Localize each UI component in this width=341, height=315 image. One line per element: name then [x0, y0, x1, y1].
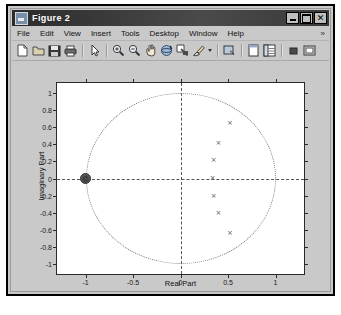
y-tick	[53, 93, 57, 94]
x-tick-top	[181, 79, 182, 83]
y-tick-right	[304, 264, 308, 265]
zero-marker: ×	[226, 120, 233, 127]
y-tick	[53, 179, 57, 180]
edit-plot-arrow-icon[interactable]	[87, 43, 102, 58]
y-tick-right	[304, 196, 308, 197]
y-tick-right	[304, 93, 308, 94]
y-tick-right	[304, 247, 308, 248]
x-tick-label: -1	[73, 279, 99, 286]
window-title: Figure 2	[32, 13, 70, 23]
menu-overflow-chevron[interactable]: »	[321, 29, 325, 38]
figure-window-inner: Figure 2 ✕ File Edit View Insert Tools D…	[10, 8, 331, 292]
y-tick	[53, 110, 57, 111]
y-tick-right	[304, 144, 308, 145]
y-tick-right	[304, 213, 308, 214]
y-tick	[53, 247, 57, 248]
toolbar-separator-3	[217, 44, 219, 57]
toolbar-separator-4	[241, 44, 243, 57]
x-tick-label: 1	[263, 279, 289, 286]
y-tick-label: 0.6	[26, 124, 52, 131]
y-tick-label: 0.2	[26, 158, 52, 165]
figure-palette-icon[interactable]	[286, 43, 301, 58]
x-tick-label: 0.5	[215, 279, 241, 286]
toolbar-separator-5	[281, 44, 283, 57]
x-tick	[181, 274, 182, 278]
zoom-out-icon[interactable]	[127, 43, 142, 58]
menu-item-window[interactable]: Window	[184, 29, 222, 38]
menu-item-insert[interactable]: Insert	[86, 29, 116, 38]
print-figure-icon[interactable]	[63, 43, 78, 58]
zero-marker: ×	[215, 210, 222, 217]
property-editor-icon[interactable]	[262, 43, 277, 58]
toolbar-separator-2	[106, 44, 108, 57]
menu-item-file[interactable]: File	[12, 29, 35, 38]
y-tick	[53, 161, 57, 162]
y-tick-label: -0.6	[26, 226, 52, 233]
tool-bar	[12, 41, 329, 61]
y-tick-right	[304, 110, 308, 111]
y-tick-label: 0.4	[26, 141, 52, 148]
open-file-icon[interactable]	[31, 43, 46, 58]
pole-marker: ×	[84, 174, 89, 179]
link-plot-icon[interactable]	[222, 43, 237, 58]
x-tick-top	[86, 79, 87, 83]
y-tick	[53, 230, 57, 231]
y-tick-label: -0.4	[26, 209, 52, 216]
x-tick-top	[276, 79, 277, 83]
y-tick	[53, 196, 57, 197]
plot-content: ××××××××××××××	[57, 83, 304, 274]
matlab-figure-icon	[15, 12, 28, 25]
x-tick	[86, 274, 87, 278]
rotate-3d-icon[interactable]	[159, 43, 174, 58]
y-tick	[53, 264, 57, 265]
unit-circle	[86, 93, 276, 264]
title-bar[interactable]: Figure 2 ✕	[12, 10, 329, 26]
plot-browser-icon[interactable]	[246, 43, 261, 58]
brush-dropdown-icon[interactable]	[207, 43, 213, 58]
insert-colorbar-icon[interactable]	[302, 43, 317, 58]
brush-select-icon[interactable]	[191, 43, 206, 58]
data-cursor-icon[interactable]	[175, 43, 190, 58]
x-tick-label: 0	[168, 279, 194, 286]
zero-marker: ×	[226, 230, 233, 237]
toolbar-separator-1	[82, 44, 84, 57]
window-controls: ✕	[286, 12, 327, 24]
zero-marker: ×	[209, 175, 216, 182]
figure-window: Figure 2 ✕ File Edit View Insert Tools D…	[6, 4, 335, 296]
x-tick	[133, 274, 134, 278]
figure-canvas: Imaginary Part Real Part ×××××××××××××× …	[12, 61, 329, 290]
menu-item-help[interactable]: Help	[222, 29, 248, 38]
pan-hand-icon[interactable]	[143, 43, 158, 58]
x-tick	[276, 274, 277, 278]
close-button[interactable]: ✕	[314, 12, 327, 24]
maximize-button[interactable]	[300, 12, 313, 24]
menu-item-edit[interactable]: Edit	[35, 29, 59, 38]
x-tick-label: -0.5	[120, 279, 146, 286]
y-tick-label: 0.8	[26, 107, 52, 114]
y-tick-label: -0.8	[26, 243, 52, 250]
x-tick-top	[228, 79, 229, 83]
x-tick-top	[133, 79, 134, 83]
y-tick-right	[304, 179, 308, 180]
menu-item-tools[interactable]: Tools	[116, 29, 145, 38]
y-tick-label: 0	[26, 175, 52, 182]
y-tick-right	[304, 127, 308, 128]
y-tick	[53, 213, 57, 214]
y-tick	[53, 144, 57, 145]
zero-marker: ×	[215, 140, 222, 147]
y-tick-label: -1	[26, 260, 52, 267]
y-tick-right	[304, 161, 308, 162]
zero-marker: ×	[210, 157, 217, 164]
x-tick	[228, 274, 229, 278]
menu-bar: File Edit View Insert Tools Desktop Wind…	[12, 26, 329, 41]
y-tick-label: -0.2	[26, 192, 52, 199]
zero-marker: ×	[210, 193, 217, 200]
menu-item-desktop[interactable]: Desktop	[145, 29, 184, 38]
plot-axes[interactable]: ×××××××××××××× 10.80.60.40.20-0.2-0.4-0.…	[56, 82, 305, 275]
y-tick	[53, 127, 57, 128]
zoom-in-icon[interactable]	[111, 43, 126, 58]
save-figure-icon[interactable]	[47, 43, 62, 58]
new-figure-icon[interactable]	[15, 43, 30, 58]
minimize-button[interactable]	[286, 12, 299, 24]
menu-item-view[interactable]: View	[59, 29, 86, 38]
